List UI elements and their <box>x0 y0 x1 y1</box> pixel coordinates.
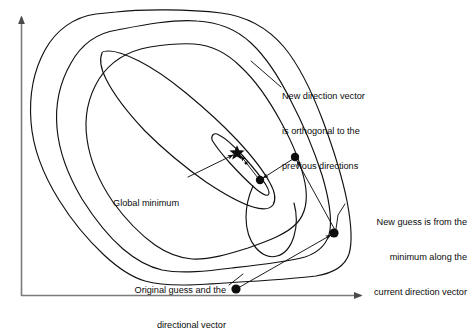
vector-intermediate-to-star <box>241 156 258 178</box>
annotation-new-direction-line-2: is orthogonal to the <box>282 126 365 138</box>
annotation-global-minimum: Global minimum <box>113 175 179 221</box>
annotation-new-direction-vector: New direction vector is orthogonal to th… <box>282 68 365 184</box>
new-guess-dot <box>329 228 338 237</box>
contour-third <box>86 44 306 259</box>
leader-global-minimum <box>188 155 233 177</box>
leader-original-guess <box>229 274 243 285</box>
annotation-new-direction-line-1: New direction vector <box>282 91 365 103</box>
annotation-new-guess: New guess is from the minimum along the … <box>341 194 467 310</box>
intermediate-minimum-dot <box>256 176 264 184</box>
annotation-new-guess-line-1: New guess is from the <box>341 217 467 229</box>
annotation-new-direction-line-3: previous directions <box>282 161 365 173</box>
tiny-point-dot <box>245 162 248 165</box>
original-guess-dot <box>231 284 240 293</box>
annotation-new-guess-line-3: current direction vector <box>341 287 467 299</box>
annotation-new-guess-line-2: minimum along the <box>341 252 467 264</box>
annotation-original-guess: Original guess and the directional vecto… <box>96 262 226 332</box>
annotation-original-guess-line-1: Original guess and the <box>96 285 226 297</box>
annotation-global-minimum-line-1: Global minimum <box>113 198 179 210</box>
annotation-original-guess-line-2: directional vector <box>96 320 226 332</box>
